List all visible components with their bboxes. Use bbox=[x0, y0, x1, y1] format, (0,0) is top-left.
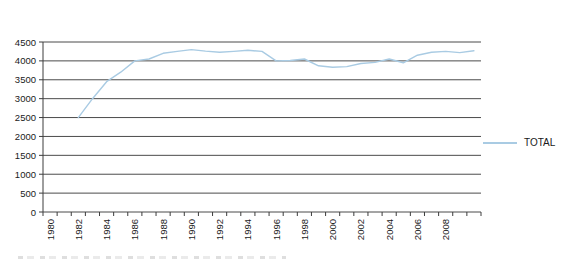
x-tick-label: 1998 bbox=[299, 219, 310, 240]
y-tick-label: 0 bbox=[31, 207, 36, 218]
x-tick-label: 1980 bbox=[45, 219, 56, 240]
x-tick-label: 1996 bbox=[271, 219, 282, 240]
x-tick-label: 1984 bbox=[101, 219, 112, 240]
y-tick-label: 3000 bbox=[15, 93, 36, 104]
x-tick-label: 1986 bbox=[129, 219, 140, 240]
y-tick-label: 2500 bbox=[15, 112, 36, 123]
y-tick-label: 2000 bbox=[15, 131, 36, 142]
y-tick-label: 3500 bbox=[15, 74, 36, 85]
x-tick-label: 1990 bbox=[186, 219, 197, 240]
x-tick-label: 2008 bbox=[440, 219, 451, 240]
y-tick-label: 1000 bbox=[15, 169, 36, 180]
legend: TOTAL bbox=[483, 137, 555, 148]
legend-label: TOTAL bbox=[524, 137, 555, 148]
x-tick-label: 2002 bbox=[355, 219, 366, 240]
x-tick-label: 2004 bbox=[384, 219, 395, 240]
x-tick-label: 1988 bbox=[158, 219, 169, 240]
total-series-line bbox=[78, 50, 474, 118]
chart-svg: 0500100015002000250030003500400045001980… bbox=[0, 0, 562, 262]
y-tick-label: 4000 bbox=[15, 55, 36, 66]
y-tick-label: 1500 bbox=[15, 150, 36, 161]
x-tick-label: 2006 bbox=[412, 219, 423, 240]
y-tick-label: 500 bbox=[20, 188, 36, 199]
x-tick-label: 1994 bbox=[242, 219, 253, 240]
legend-line-swatch bbox=[483, 142, 517, 144]
x-tick-label: 1992 bbox=[214, 219, 225, 240]
y-tick-label: 4500 bbox=[15, 37, 36, 48]
x-tick-label: 2000 bbox=[327, 219, 338, 240]
chart-page: 0500100015002000250030003500400045001980… bbox=[0, 0, 562, 262]
x-tick-label: 1982 bbox=[73, 219, 84, 240]
cropped-caption-remnant bbox=[18, 256, 286, 259]
